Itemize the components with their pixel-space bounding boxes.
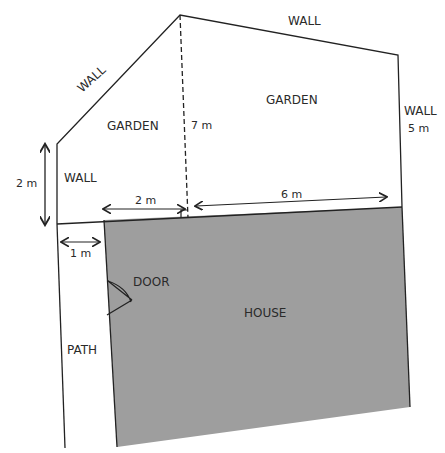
- label-garden-right: GARDEN: [266, 93, 318, 107]
- house-area: [104, 207, 410, 447]
- label-path: PATH: [67, 343, 97, 357]
- label-wall-diagonal: WALL: [75, 63, 109, 96]
- label-dim-7m: 7 m: [191, 119, 212, 132]
- label-wall-left: WALL: [64, 171, 97, 185]
- dashed-depth-line: [180, 15, 188, 218]
- label-dim-2m-left: 2 m: [16, 177, 37, 190]
- label-dim-5m: 5 m: [408, 122, 429, 135]
- garden-plan-diagram: WALL WALL GARDEN 7 m GARDEN WALL 5 m 2 m…: [0, 0, 445, 453]
- label-door: DOOR: [133, 275, 169, 289]
- label-dim-1m: 1 m: [70, 247, 91, 260]
- label-wall-top: WALL: [288, 14, 321, 28]
- path-left-edge: [57, 224, 65, 448]
- label-dim-6m: 6 m: [281, 188, 302, 201]
- label-house: HOUSE: [244, 306, 286, 320]
- label-wall-right: WALL: [404, 104, 437, 118]
- label-dim-2m: 2 m: [135, 194, 156, 207]
- label-garden-left: GARDEN: [107, 119, 159, 133]
